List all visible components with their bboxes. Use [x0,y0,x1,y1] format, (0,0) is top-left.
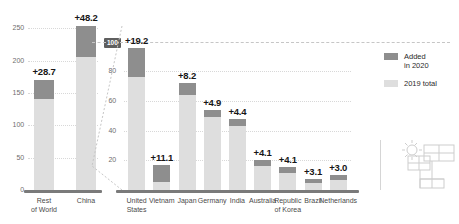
bar-segment-2019-total [34,99,54,190]
bar-value-right-1: +11.1 [144,152,179,163]
bar-segment-added [204,110,221,117]
gridline-right-80 [124,71,351,72]
bar-segment-2019-total [229,126,246,190]
bar-segment-2019-total [153,182,170,190]
legend-label-1: 2019 total [404,79,437,88]
bar-segment-2019-total [254,166,271,190]
legend-item-1: 2019 total [384,79,437,88]
bar-segment-2019-total [179,95,196,190]
bar-right-5 [254,160,271,190]
bar-right-3 [204,110,221,190]
chart-legend: Added in 20202019 total [384,52,437,97]
bar-value-0: +28.7 [26,66,62,77]
bar-segment-added [128,48,145,76]
ytick-left-0: 0 [2,186,24,193]
bar-right-8 [330,175,347,190]
bar-value-right-8: +3.0 [321,162,356,173]
bar-segment-2019-total [128,77,145,190]
bar-value-right-6: +4.1 [270,154,305,165]
bar-right-2 [179,83,196,190]
bar-right-4 [229,119,246,190]
gridline-right-100 [120,42,450,43]
bar-segment-2019-total [204,117,221,190]
bar-segment-added [179,83,196,95]
bar-value-right-2: +8.2 [170,70,205,81]
gridline-right-60 [124,101,351,102]
axis-baseline-right [116,190,359,193]
solar-panel-sun-icon [398,138,456,190]
category-label-left-0: Rest of World [24,197,64,214]
bar-right-7 [305,179,322,190]
bar-segment-added [34,80,54,99]
bar-segment-2019-total [279,173,296,190]
bar-segment-2019-total [305,183,322,190]
bar-segment-added [153,165,170,181]
legend-item-0: Added in 2020 [384,52,437,70]
category-label-right-8: Netherlands [319,197,358,206]
bar-segment-2019-total [330,180,347,190]
bar-right-0 [128,48,145,190]
zoom-connector-lines [86,24,126,199]
ytick-left-150: 150 [2,89,24,96]
legend-swatch-0 [384,53,398,60]
bar-right-1 [153,165,170,190]
ytick-left-50: 50 [2,154,24,161]
bar-value-right-0: +19.2 [119,35,154,46]
legend-label-0: Added in 2020 [404,52,429,70]
bar-value-1: +48.2 [68,12,104,23]
ytick-left-100: 100 [2,121,24,128]
ytick-left-250: 250 [2,24,24,31]
legend-swatch-1 [384,80,398,87]
bar-right-6 [279,167,296,190]
panel-divider [380,140,381,190]
bar-value-right-4: +4.4 [220,106,255,117]
solar-capacity-stacked-bar-chart: 050100150200250+28.7Rest of World+48.2Ch… [0,0,459,224]
ytick-left-200: 200 [2,57,24,64]
bar-left-0 [34,80,54,190]
